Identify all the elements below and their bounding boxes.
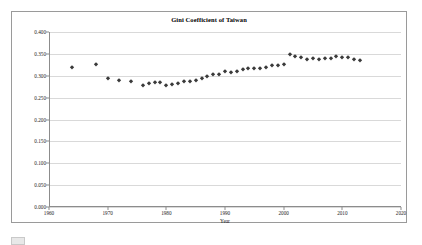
- data-point: [247, 66, 251, 70]
- chart-area: Gini Coefficient of Taiwan 0.0000.0500.1…: [12, 12, 406, 222]
- data-point: [276, 63, 280, 67]
- data-point: [153, 80, 157, 84]
- x-tick-label: 1990: [220, 210, 230, 216]
- data-point: [358, 58, 362, 62]
- data-point: [147, 81, 151, 85]
- data-point: [159, 80, 163, 84]
- caption-swatch-icon: [11, 237, 25, 245]
- data-point: [229, 70, 233, 74]
- gridline-y: [49, 76, 401, 77]
- data-point: [94, 63, 98, 67]
- x-tick-label: 2020: [396, 210, 406, 216]
- data-point: [164, 84, 168, 88]
- y-tick-mark: [46, 32, 49, 33]
- y-tick-label: 0.400: [34, 29, 46, 35]
- caption-strip: [11, 233, 407, 245]
- data-point: [329, 56, 333, 60]
- data-point: [299, 55, 303, 59]
- data-point: [182, 80, 186, 84]
- data-point: [258, 66, 262, 70]
- data-point: [282, 63, 286, 67]
- gridline-y: [49, 163, 401, 164]
- data-point: [340, 56, 344, 60]
- gridline-y: [49, 141, 401, 142]
- y-tick-label: 0.200: [34, 117, 46, 123]
- data-point: [352, 57, 356, 61]
- data-point: [71, 65, 75, 69]
- data-point: [223, 69, 227, 73]
- data-point: [194, 78, 198, 82]
- data-point: [129, 80, 133, 84]
- data-point: [200, 76, 204, 80]
- data-point: [141, 83, 145, 87]
- x-tick-label: 2010: [337, 210, 347, 216]
- x-axis-title: Year: [49, 218, 401, 224]
- data-point: [188, 80, 192, 84]
- y-tick-mark: [46, 141, 49, 142]
- x-tick-label: 1960: [44, 210, 54, 216]
- y-tick-label: 0.150: [34, 138, 46, 144]
- gridline-y: [49, 98, 401, 99]
- data-point: [235, 69, 239, 73]
- data-point: [317, 57, 321, 61]
- data-point: [241, 67, 245, 71]
- gridline-y: [49, 32, 401, 33]
- data-point: [305, 57, 309, 61]
- y-axis-line: [49, 32, 50, 207]
- gridline-y: [49, 185, 401, 186]
- data-point: [118, 78, 122, 82]
- x-tick-label: 1980: [161, 210, 171, 216]
- y-tick-mark: [46, 75, 49, 76]
- data-point: [323, 56, 327, 60]
- gridline-y: [49, 120, 401, 121]
- data-point: [270, 63, 274, 67]
- y-tick-mark: [46, 97, 49, 98]
- y-tick-mark: [46, 53, 49, 54]
- x-tick-label: 2000: [278, 210, 288, 216]
- y-tick-label: 0.300: [34, 73, 46, 79]
- y-tick-label: 0.100: [34, 160, 46, 166]
- x-tick-label: 1970: [102, 210, 112, 216]
- y-tick-label: 0.250: [34, 95, 46, 101]
- data-point: [170, 82, 174, 86]
- data-point: [106, 77, 110, 81]
- y-tick-mark: [46, 185, 49, 186]
- y-tick-label: 0.050: [34, 182, 46, 188]
- y-tick-mark: [46, 119, 49, 120]
- data-point: [252, 66, 256, 70]
- figure-frame: Gini Coefficient of Taiwan 0.0000.0500.1…: [11, 11, 407, 223]
- plot-area: 0.0000.0500.1000.1500.2000.2500.3000.350…: [49, 32, 401, 207]
- chart-title: Gini Coefficient of Taiwan: [12, 16, 406, 23]
- data-point: [288, 52, 292, 56]
- data-point: [346, 56, 350, 60]
- y-tick-label: 0.350: [34, 51, 46, 57]
- data-point: [311, 56, 315, 60]
- data-point: [176, 81, 180, 85]
- data-point: [264, 65, 268, 69]
- y-tick-mark: [46, 163, 49, 164]
